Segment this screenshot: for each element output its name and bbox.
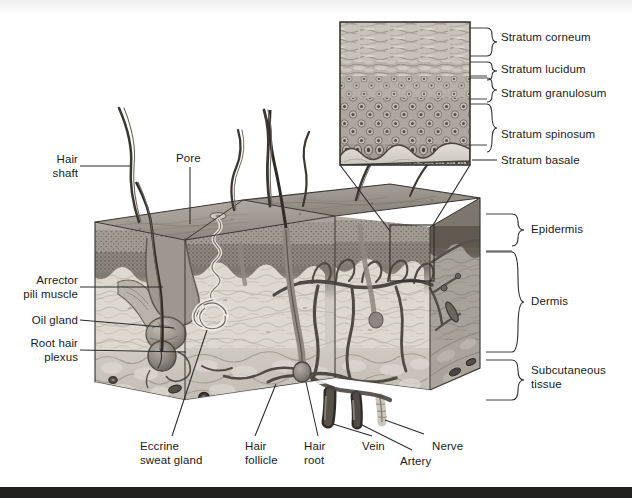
label-eccrine-sweat-gland: Eccrine sweat gland [140, 440, 202, 467]
label-hair-follicle: Hair follicle [245, 440, 278, 467]
label-subcutaneous: Subcutaneous tissue [531, 364, 606, 391]
label-hair-shaft: Hair shaft [0, 153, 78, 180]
central-hair-root [293, 362, 311, 382]
label-dermis: Dermis [531, 295, 568, 309]
label-artery: Artery [400, 455, 431, 469]
layer-braces [486, 214, 524, 400]
label-nerve: Nerve [432, 440, 463, 454]
label-hair-root: Hair root [304, 440, 326, 467]
label-stratum-corneum: Stratum corneum [501, 31, 591, 45]
brace-corneum [487, 28, 497, 56]
label-stratum-spinosum: Stratum spinosum [501, 128, 595, 142]
brace-lucidum [487, 62, 497, 80]
label-stratum-lucidum: Stratum lucidum [501, 63, 586, 77]
inset-label-braces [470, 28, 497, 160]
label-root-hair-plexus: Root hair plexus [0, 337, 78, 364]
label-pore: Pore [176, 152, 201, 166]
label-stratum-basale: Stratum basale [501, 154, 580, 168]
label-arrector-pili: Arrector pili muscle [0, 274, 78, 301]
scan-artifact-bottom [0, 487, 632, 498]
brace-granulosum [487, 78, 497, 102]
brace-spinosum [487, 104, 497, 152]
leader-hair-root [306, 382, 318, 436]
figure-canvas: Stratum corneum Stratum lucidum Stratum … [0, 0, 632, 498]
brace-dermis [512, 252, 524, 352]
label-stratum-granulosum: Stratum granulosum [501, 87, 606, 101]
label-epidermis: Epidermis [531, 223, 583, 237]
leader-nerve [385, 420, 424, 434]
label-oil-gland: Oil gland [0, 314, 78, 328]
label-vein: Vein [362, 440, 385, 454]
brace-epidermis [512, 214, 524, 246]
brace-subcutaneous [512, 360, 524, 400]
